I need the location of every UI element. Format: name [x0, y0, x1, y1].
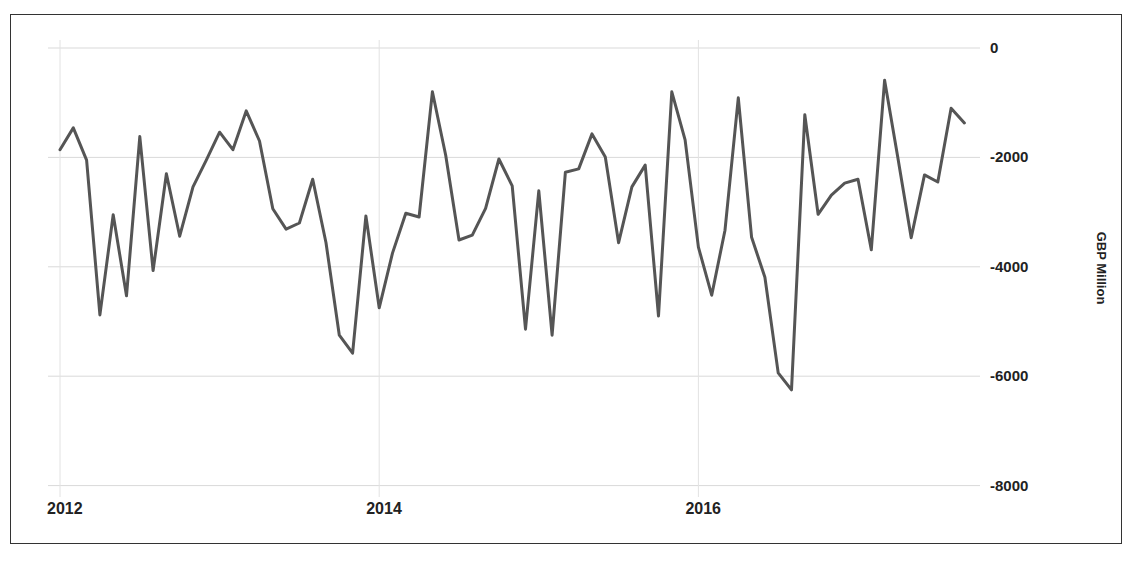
x-tick-label: 2014 [366, 500, 402, 517]
y-tick-label: -4000 [990, 258, 1028, 275]
y-tick-label: 0 [990, 39, 998, 56]
series-line [60, 80, 964, 390]
x-tick-label: 2012 [47, 500, 83, 517]
y-tick-label: -8000 [990, 477, 1028, 494]
y-tick-label: -2000 [990, 148, 1028, 165]
y-axis-label: GBP Million [1094, 232, 1109, 305]
y-tick-label: -6000 [990, 367, 1028, 384]
x-tick-label: 2016 [685, 500, 721, 517]
gridlines [48, 40, 980, 497]
y-axis-ticks: 0-2000-4000-6000-8000 [990, 39, 1028, 494]
line-chart: 0-2000-4000-6000-8000 201220142016 GBP M… [0, 0, 1134, 561]
x-axis-ticks: 201220142016 [47, 500, 721, 517]
